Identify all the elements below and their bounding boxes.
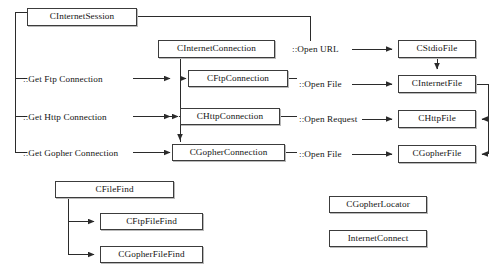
label-open-url: ::Open URL bbox=[292, 45, 339, 54]
node-cftpconnection[interactable]: CFtpConnection bbox=[188, 70, 288, 87]
label-open-file-gopher: ::Open File bbox=[299, 150, 342, 159]
label-open-file-ftp: ::Open File bbox=[299, 80, 342, 89]
node-cinternetconnection[interactable]: CInternetConnection bbox=[158, 40, 275, 58]
label-get-ftp-connection: ::Get Ftp Connection bbox=[23, 75, 103, 84]
node-cftpfilefind[interactable]: CFtpFileFind bbox=[100, 213, 203, 230]
label-get-http-connection: ::Get Http Connection bbox=[23, 113, 107, 122]
node-cstdiofile[interactable]: CStdioFile bbox=[398, 40, 476, 58]
node-internetconnect[interactable]: InternetConnect bbox=[329, 230, 427, 247]
node-cgopherfilefind[interactable]: CGopherFileFind bbox=[100, 246, 203, 263]
class-diagram-canvas: CInternetSession CInternetConnection CFt… bbox=[0, 0, 496, 276]
label-open-request: ::Open Request bbox=[299, 115, 357, 124]
node-cinternetfile[interactable]: CInternetFile bbox=[398, 75, 476, 93]
label-get-gopher-connection: ::Get Gopher Connection bbox=[23, 149, 118, 158]
node-chttpfile[interactable]: CHttpFile bbox=[398, 110, 476, 128]
node-cfilefind[interactable]: CFileFind bbox=[55, 181, 174, 198]
node-cgopherconnection[interactable]: CGopherConnection bbox=[172, 144, 285, 161]
node-cgopherfile[interactable]: CGopherFile bbox=[398, 145, 476, 163]
node-cinternetsession[interactable]: CInternetSession bbox=[27, 8, 137, 26]
node-chttpconnection[interactable]: CHttpConnection bbox=[180, 108, 280, 125]
node-cgopherlocator[interactable]: CGopherLocator bbox=[329, 196, 427, 213]
